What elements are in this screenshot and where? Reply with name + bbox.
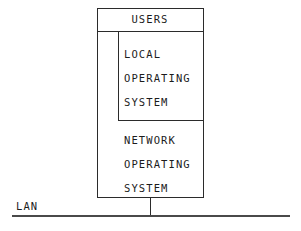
stack-box-top-edge — [97, 8, 204, 9]
local-os-line-3: SYSTEM — [124, 96, 169, 108]
local-os-left-edge — [118, 31, 119, 121]
local-os-bottom-edge — [118, 120, 204, 121]
network-os-line-2: OPERATING — [124, 158, 191, 170]
local-os-line-2: OPERATING — [124, 72, 191, 84]
diagram-canvas: USERS LOCAL OPERATING SYSTEM NETWORK OPE… — [0, 0, 301, 231]
users-divider-line — [97, 31, 204, 32]
network-os-line-3: SYSTEM — [124, 182, 169, 194]
users-label: USERS — [97, 13, 203, 25]
lan-label: LAN — [16, 200, 38, 212]
lan-connector-line — [150, 197, 151, 215]
local-os-line-1: LOCAL — [124, 48, 161, 60]
network-os-line-1: NETWORK — [124, 134, 176, 146]
stack-box-right-edge — [203, 8, 204, 198]
stack-box-left-edge — [97, 8, 98, 198]
lan-bus-line — [12, 215, 290, 217]
